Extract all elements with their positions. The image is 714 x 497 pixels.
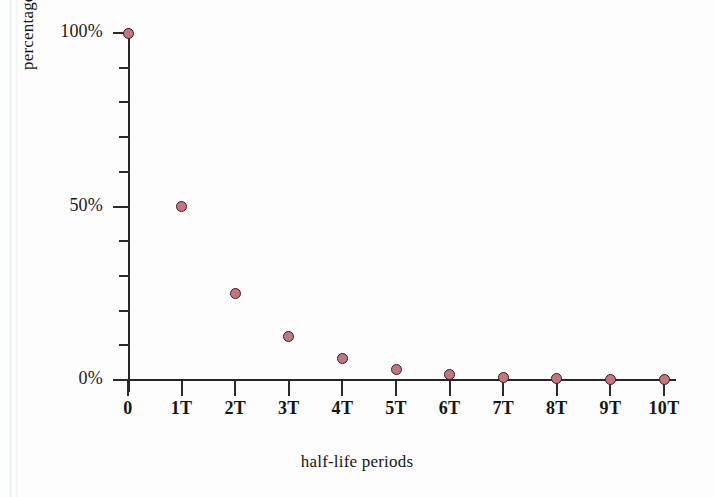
x-tick-label-9T: 9T xyxy=(600,398,622,419)
y-tick-mark xyxy=(119,310,130,312)
x-tick-label-10T: 10T xyxy=(649,398,680,419)
y-axis-line xyxy=(128,28,130,392)
x-tick-mark-5T xyxy=(395,381,397,396)
data-point xyxy=(176,201,187,212)
x-axis-line xyxy=(120,379,676,381)
decay-chart-figure: 0%50%100% 01T2T3T4T5T6T7T8T9T10T percent… xyxy=(0,0,714,497)
x-tick-mark-2T xyxy=(234,381,236,396)
data-point xyxy=(551,373,562,384)
y-tick-mark xyxy=(113,206,130,208)
y-tick-mark xyxy=(119,67,130,69)
x-tick-mark-0 xyxy=(127,381,129,396)
x-tick-label-5T: 5T xyxy=(385,398,407,419)
x-tick-label-0: 0 xyxy=(123,398,132,419)
data-point xyxy=(123,28,134,39)
x-tick-mark-1T xyxy=(181,381,183,396)
y-axis-title: percentage of undecayed atomic nuclei xyxy=(18,0,38,70)
y-tick-mark xyxy=(119,171,130,173)
y-tick-mark xyxy=(119,344,130,346)
y-tick-mark xyxy=(119,136,130,138)
x-tick-mark-4T xyxy=(341,381,343,396)
data-point xyxy=(230,288,241,299)
y-tick-label: 50% xyxy=(69,195,103,216)
y-tick-label: 100% xyxy=(60,21,103,42)
x-tick-label-4T: 4T xyxy=(332,398,354,419)
y-tick-label: 0% xyxy=(79,368,103,389)
x-tick-label-3T: 3T xyxy=(278,398,300,419)
data-point xyxy=(498,372,509,383)
data-point xyxy=(391,364,402,375)
x-tick-label-7T: 7T xyxy=(492,398,514,419)
x-tick-mark-6T xyxy=(449,381,451,396)
data-point xyxy=(337,353,348,364)
x-tick-label-2T: 2T xyxy=(224,398,246,419)
x-tick-mark-7T xyxy=(502,381,504,396)
x-tick-label-8T: 8T xyxy=(546,398,568,419)
page-edge-artifact-secondary xyxy=(16,0,18,497)
data-point xyxy=(659,374,670,385)
y-tick-mark xyxy=(119,101,130,103)
x-tick-mark-3T xyxy=(288,381,290,396)
data-point xyxy=(283,331,294,342)
data-point xyxy=(605,374,616,385)
page-edge-artifact xyxy=(9,0,12,497)
y-tick-mark xyxy=(119,275,130,277)
y-tick-mark xyxy=(119,240,130,242)
x-axis-title: half-life periods xyxy=(0,452,714,472)
x-tick-label-6T: 6T xyxy=(439,398,461,419)
x-tick-label-1T: 1T xyxy=(171,398,193,419)
